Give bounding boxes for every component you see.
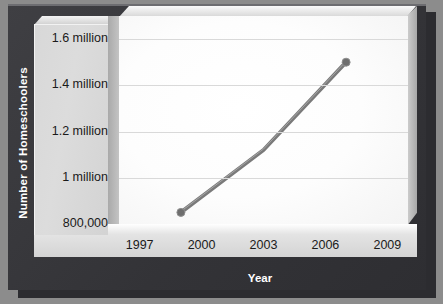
- data-point-marker: [342, 58, 350, 66]
- gridline: [119, 85, 408, 86]
- y-axis-tick-label: 1.6 million: [52, 32, 108, 45]
- plot-right-bevel: [407, 6, 417, 226]
- data-series-svg: [119, 16, 408, 224]
- x-axis-tick-label: 2003: [250, 238, 278, 252]
- gridline: [119, 178, 408, 179]
- x-axis-tick-label: 1997: [126, 238, 154, 252]
- x-axis-tick-label: 2006: [312, 238, 340, 252]
- plot-area: [119, 16, 408, 224]
- frame-top-highlight: [8, 4, 426, 6]
- plot-floor-bevel: [108, 224, 417, 235]
- chart-frame: Number of Homeschoolers 800,0001 million…: [0, 0, 443, 304]
- y-axis-tick-label: 1.2 million: [52, 125, 108, 138]
- gridline: [119, 39, 408, 40]
- y-axis-title: Number of Homeschoolers: [10, 22, 36, 264]
- x-axis-tick-band: 19972000200320062009: [34, 235, 417, 257]
- y-axis-tick-label: 1 million: [62, 171, 108, 184]
- x-axis-title: Year: [110, 268, 410, 288]
- y-axis-tick-label: 1.4 million: [52, 78, 108, 91]
- x-axis-title-label: Year: [248, 272, 272, 284]
- x-axis-tick-label: 2000: [188, 238, 216, 252]
- data-line-highlight: [181, 61, 346, 211]
- y-axis-tick-panel: 800,0001 million1.2 million1.4 million1.…: [34, 24, 114, 252]
- x-axis-tick-label: 2009: [373, 238, 401, 252]
- data-point-marker: [177, 208, 185, 216]
- y-axis-tick-label: 800,000: [63, 217, 108, 230]
- gridline: [119, 132, 408, 133]
- y-axis-title-label: Number of Homeschoolers: [17, 67, 29, 219]
